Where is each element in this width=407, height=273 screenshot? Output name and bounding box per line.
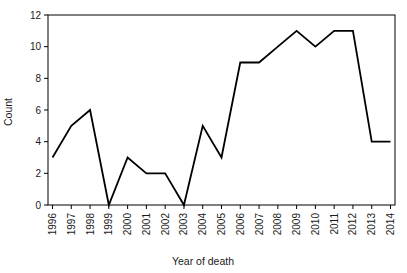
- svg-text:2000: 2000: [122, 213, 133, 236]
- y-axis-title: Count: [2, 98, 14, 126]
- svg-text:2005: 2005: [216, 213, 227, 236]
- svg-text:2004: 2004: [197, 213, 208, 236]
- svg-text:10: 10: [30, 41, 42, 52]
- svg-text:2003: 2003: [178, 213, 189, 236]
- svg-text:2009: 2009: [291, 213, 302, 236]
- svg-text:1999: 1999: [103, 213, 114, 236]
- svg-text:2014: 2014: [385, 213, 396, 236]
- svg-text:2002: 2002: [160, 213, 171, 236]
- svg-text:2008: 2008: [272, 213, 283, 236]
- svg-text:2010: 2010: [310, 213, 321, 236]
- svg-text:0: 0: [35, 200, 41, 211]
- chart-figure: 024681012 199619971998199920002001200220…: [0, 0, 407, 273]
- svg-text:2: 2: [35, 168, 41, 179]
- svg-text:8: 8: [35, 73, 41, 84]
- svg-text:6: 6: [35, 105, 41, 116]
- svg-text:2012: 2012: [347, 213, 358, 236]
- svg-text:2013: 2013: [366, 213, 377, 236]
- svg-text:1998: 1998: [85, 213, 96, 236]
- svg-text:1996: 1996: [47, 213, 58, 236]
- x-axis-title: Year of death: [172, 255, 234, 267]
- svg-text:2001: 2001: [141, 213, 152, 236]
- svg-text:4: 4: [35, 136, 41, 147]
- svg-text:2007: 2007: [254, 213, 265, 236]
- svg-text:2011: 2011: [329, 213, 340, 235]
- line-chart: 024681012 199619971998199920002001200220…: [0, 0, 407, 273]
- svg-text:2006: 2006: [235, 213, 246, 236]
- svg-text:12: 12: [30, 10, 42, 21]
- svg-text:1997: 1997: [66, 213, 77, 236]
